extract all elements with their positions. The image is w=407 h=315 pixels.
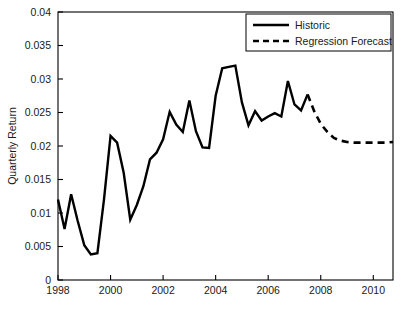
y-tick-label: 0.005 [25,240,51,252]
x-tick-label: 2006 [257,284,281,296]
y-tick-label: 0.01 [31,207,52,219]
y-tick-label: 0.04 [31,6,52,18]
y-axis-title: Quarterly Return [6,107,18,185]
y-tick-label: 0.015 [25,173,51,185]
legend-label-historic: Historic [295,19,330,31]
y-tick-label: 0.035 [25,39,51,51]
quarterly-return-line-chart: 00.0050.010.0150.020.0250.030.0350.04 19… [0,0,407,315]
x-tick-label: 1998 [46,284,70,296]
y-tick-label: 0.025 [25,106,51,118]
chart-legend: Historic Regression Forecast [246,14,392,51]
plot-axes [58,12,393,280]
plot-frame [58,12,393,280]
legend-label-regression-forecast: Regression Forecast [295,35,392,47]
y-tick-label: 0.03 [31,73,52,85]
x-tick-label: 2008 [309,284,333,296]
x-tick-label: 2000 [99,284,123,296]
y-axis: 00.0050.010.0150.020.0250.030.0350.04 [25,6,63,286]
chart-figure: 00.0050.010.0150.020.0250.030.0350.04 19… [0,0,407,315]
x-tick-label: 2010 [362,284,386,296]
x-tick-label: 2004 [204,284,228,296]
x-tick-label: 2002 [151,284,175,296]
y-tick-label: 0.02 [31,140,52,152]
